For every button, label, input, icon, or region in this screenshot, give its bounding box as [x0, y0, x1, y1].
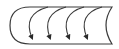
- curved-arrow-1: [29, 7, 48, 38]
- curved-arrow-2: [48, 7, 66, 38]
- diagram-canvas: [0, 0, 119, 49]
- curved-arrows-band-icon: [0, 0, 119, 49]
- curved-arrow-4: [84, 7, 102, 38]
- band-outline: [10, 7, 112, 44]
- curved-arrow-3: [66, 7, 84, 38]
